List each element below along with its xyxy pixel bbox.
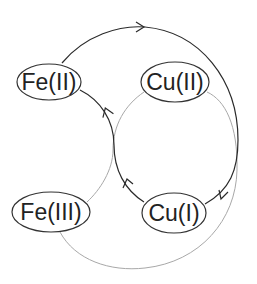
redox-cycle-diagram: Fe(II) Cu(II) Fe(III) Cu(I) [0, 0, 257, 284]
node-cu2-label: Cu(II) [146, 69, 204, 95]
node-fe3-label: Fe(III) [20, 199, 81, 225]
node-cu1: Cu(I) [142, 193, 206, 233]
dark-cycle [62, 27, 238, 204]
edge-fe3-to-cu2 [60, 92, 237, 269]
node-cu2: Cu(II) [141, 62, 209, 102]
edge-cu1-to-fe2 [80, 90, 144, 202]
edge-cu2-to-fe3 [87, 92, 144, 202]
light-cycle [60, 92, 237, 269]
node-cu1-label: Cu(I) [148, 200, 199, 226]
arrowheads [101, 22, 228, 199]
node-fe2-label: Fe(II) [22, 69, 77, 95]
node-fe2: Fe(II) [17, 64, 81, 100]
edge-fe2-to-cu1 [62, 27, 238, 204]
arrow-down-left-icon [219, 190, 228, 199]
node-fe3: Fe(III) [12, 192, 90, 232]
arrow-up-left-icon [123, 179, 133, 188]
